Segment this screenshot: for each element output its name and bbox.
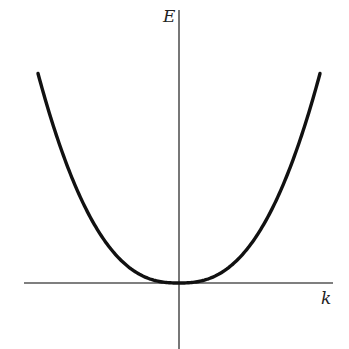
- k-axis-label: k: [321, 290, 331, 307]
- e-axis-label: E: [163, 8, 175, 25]
- dispersion-chart: [0, 0, 349, 349]
